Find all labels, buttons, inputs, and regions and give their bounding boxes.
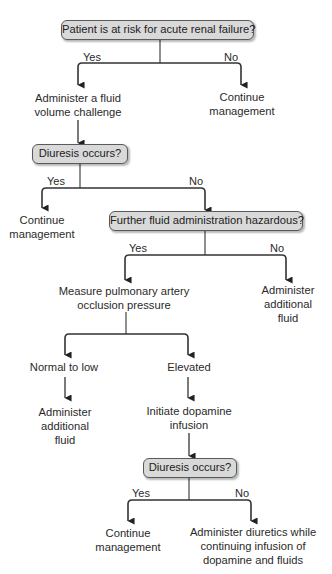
action-line: fluid — [262, 311, 315, 325]
action-initiate-dopamine: Initiate dopamine infusion — [146, 404, 231, 432]
action-line: management — [209, 104, 274, 118]
decision-label: Patient is at risk for acute renal failu… — [62, 23, 255, 35]
action-line: infusion — [146, 418, 231, 432]
action-line: Normal to low — [30, 360, 98, 374]
action-line: Measure pulmonary artery — [59, 284, 190, 298]
decision-diuresis-occurs-2: Diuresis occurs? — [143, 458, 237, 478]
branch-label-yes: Yes — [47, 175, 65, 187]
action-administer-diuretics: Administer diuretics while continuing in… — [190, 525, 316, 567]
action-line: Continue — [209, 90, 274, 104]
branch-label-no: No — [235, 487, 249, 499]
action-line: occlusion pressure — [59, 298, 190, 312]
decision-diuresis-occurs-1: Diuresis occurs? — [32, 144, 128, 164]
branch-label-yes: Yes — [83, 51, 101, 63]
outcome-elevated: Elevated — [167, 360, 211, 374]
action-line: additional — [262, 297, 315, 311]
decision-label: Diuresis occurs? — [39, 147, 122, 159]
branch-label-no: No — [189, 175, 203, 187]
action-line: additional — [39, 419, 92, 433]
action-administer-additional-fluid-1: Administer additional fluid — [262, 283, 315, 325]
branch-label-no: No — [270, 242, 284, 254]
action-line: management — [95, 540, 160, 554]
action-line: Continue — [9, 213, 74, 227]
branch-label-no: No — [224, 51, 238, 63]
action-measure-paop: Measure pulmonary artery occlusion press… — [59, 284, 190, 312]
action-line: volume challenge — [34, 105, 121, 119]
branch-label-yes: Yes — [129, 242, 147, 254]
action-continue-management-3: Continue management — [95, 526, 160, 554]
action-administer-additional-fluid-2: Administer additional fluid — [39, 405, 92, 447]
action-line: Initiate dopamine — [146, 404, 231, 418]
action-line: Continue — [95, 526, 160, 540]
renal-failure-flowchart: Patient is at risk for acute renal failu… — [0, 0, 332, 574]
decision-label: Diuresis occurs? — [149, 461, 232, 473]
action-line: dopamine and fluids — [190, 553, 316, 567]
action-line: continuing infusion of — [190, 539, 316, 553]
action-line: management — [9, 227, 74, 241]
action-line: Administer — [39, 405, 92, 419]
decision-fluid-hazardous: Further fluid administration hazardous? — [109, 211, 303, 231]
decision-label: Further fluid administration hazardous? — [110, 214, 304, 226]
action-line: Administer a fluid — [34, 91, 121, 105]
action-line: Administer diuretics while — [190, 525, 316, 539]
branch-label-yes: Yes — [132, 487, 150, 499]
action-line: Administer — [262, 283, 315, 297]
action-fluid-volume-challenge: Administer a fluid volume challenge — [34, 91, 121, 119]
action-continue-management-1: Continue management — [209, 90, 274, 118]
action-continue-management-2: Continue management — [9, 213, 74, 241]
decision-risk-acute-renal-failure: Patient is at risk for acute renal failu… — [61, 20, 254, 40]
action-line: fluid — [39, 433, 92, 447]
outcome-normal-to-low: Normal to low — [30, 360, 98, 374]
action-line: Elevated — [167, 360, 211, 374]
